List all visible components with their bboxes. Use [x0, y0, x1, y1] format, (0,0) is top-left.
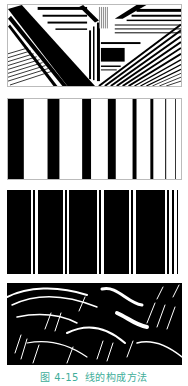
- barcode-lines-graphic: [7, 190, 182, 274]
- line-composition-panel-diagonal: [7, 4, 182, 87]
- figure-number: 图 4-15: [40, 372, 79, 383]
- line-composition-panel-texture: [7, 283, 182, 365]
- figure-title: 线的构成方法: [85, 372, 148, 383]
- line-composition-panel-gradient-stripes: [7, 98, 182, 180]
- vertical-stripes-graphic: [8, 99, 181, 179]
- brush-stroke-texture-graphic: [7, 283, 182, 365]
- diagonal-lines-graphic: [8, 5, 181, 86]
- figure-caption: 图 4-15线的构成方法: [0, 369, 188, 384]
- line-composition-panel-barcode: [7, 190, 182, 274]
